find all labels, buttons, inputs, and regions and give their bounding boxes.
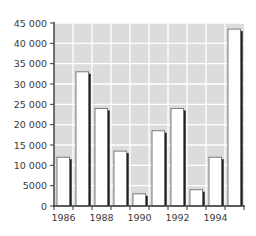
bar-chart: 0500010 00015 00020 00025 00030 00035 00… — [0, 0, 256, 236]
bar-1987 — [76, 72, 91, 206]
bar — [171, 108, 184, 206]
x-tick-label: 1990 — [127, 212, 151, 223]
bar-1992 — [171, 108, 186, 206]
bar — [209, 157, 222, 206]
y-tick-label: 30 000 — [14, 79, 47, 90]
y-tick-label: 45 000 — [14, 18, 47, 29]
bar-1990 — [133, 194, 148, 206]
bar-1995 — [228, 29, 243, 206]
y-tick-label: 20 000 — [14, 119, 47, 130]
x-tick-label: 1992 — [165, 212, 189, 223]
x-tick-label: 1994 — [203, 212, 227, 223]
x-tick-label: 1986 — [51, 212, 75, 223]
x-tick-label: 1988 — [89, 212, 113, 223]
bar-1989 — [114, 151, 129, 206]
bar — [57, 157, 70, 206]
bar-1986 — [57, 157, 72, 206]
bar — [95, 108, 108, 206]
y-tick-label: 10 000 — [14, 160, 47, 171]
y-tick-label: 35 000 — [14, 58, 47, 69]
y-tick-label: 40 000 — [14, 38, 47, 49]
bar-1994 — [209, 157, 224, 206]
bar-1993 — [190, 190, 205, 206]
y-tick-label: 5000 — [23, 180, 47, 191]
x-tick-labels: 19861988199019921994 — [51, 212, 227, 223]
bar-1988 — [95, 108, 110, 206]
y-tick-label: 0 — [41, 201, 47, 212]
bar — [133, 194, 146, 206]
bar — [152, 131, 165, 206]
y-tick-label: 25 000 — [14, 99, 47, 110]
bar — [228, 29, 241, 206]
bar — [114, 151, 127, 206]
bar-1991 — [152, 131, 167, 206]
bar — [76, 72, 89, 206]
bar — [190, 190, 203, 206]
y-tick-label: 15 000 — [14, 140, 47, 151]
y-tick-labels: 0500010 00015 00020 00025 00030 00035 00… — [14, 18, 47, 212]
